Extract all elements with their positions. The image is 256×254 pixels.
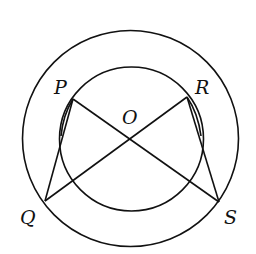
inner-circle bbox=[60, 67, 204, 211]
segment-PS bbox=[73, 99, 219, 202]
label-Q: Q bbox=[20, 206, 36, 228]
geometry-diagram: P R O Q S bbox=[0, 0, 256, 254]
segment-RS bbox=[187, 97, 219, 202]
label-O: O bbox=[122, 106, 138, 128]
segment-PQ bbox=[45, 99, 73, 201]
label-S: S bbox=[224, 206, 237, 228]
label-R: R bbox=[194, 76, 209, 98]
label-P: P bbox=[53, 76, 68, 98]
